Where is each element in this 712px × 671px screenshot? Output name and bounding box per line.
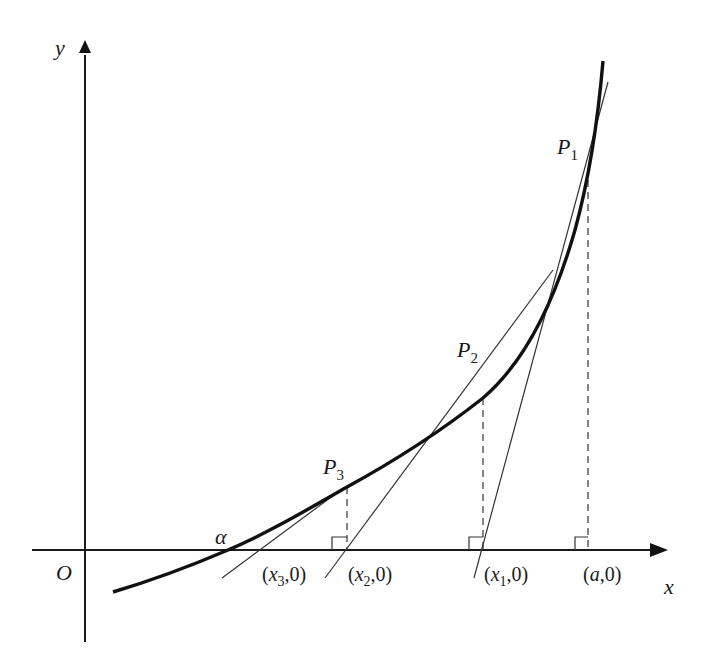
right-angle-marker-a <box>575 537 588 550</box>
newton-raphson-diagram: y x O α P1 P2 P3 (a,0) (x1,0) (x2,0) (x3… <box>0 0 712 671</box>
intercept-label-x1: (x1,0) <box>484 563 528 589</box>
function-curve <box>113 61 603 592</box>
y-axis-arrow-icon <box>79 40 91 53</box>
tangent-lines <box>222 82 608 578</box>
tangent-at-p3 <box>222 489 342 578</box>
point-label-p1: P1 <box>556 134 578 163</box>
right-angle-marker-x2 <box>332 537 347 550</box>
y-axis-label: y <box>53 35 65 60</box>
point-label-p3: P3 <box>322 454 344 483</box>
point-label-p2: P2 <box>456 337 478 366</box>
x-axis-label: x <box>663 574 674 599</box>
intercept-label-a: (a,0) <box>583 563 621 586</box>
axes <box>32 40 668 642</box>
tangent-at-p2 <box>325 270 553 578</box>
right-angle-marker-x1 <box>469 537 483 550</box>
right-angle-markers <box>332 537 588 550</box>
intercept-label-x3: (x3,0) <box>262 563 306 589</box>
origin-label: O <box>56 560 72 585</box>
intercept-label-x2: (x2,0) <box>348 563 392 589</box>
root-alpha-label: α <box>215 524 227 549</box>
x-axis-arrow-icon <box>650 543 668 557</box>
